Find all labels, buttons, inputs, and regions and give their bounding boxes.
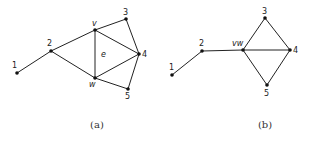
node-3 <box>263 16 267 20</box>
node-vw <box>241 48 245 52</box>
node-label-1: 1 <box>12 61 17 70</box>
caption-graph-b: (b) <box>258 119 272 130</box>
edge-2-w <box>51 51 95 78</box>
node-5 <box>126 87 130 91</box>
node-v <box>93 28 97 32</box>
node-label-4: 4 <box>142 50 147 59</box>
node-1 <box>170 73 174 77</box>
edge-w-5 <box>95 78 128 89</box>
node-label-1: 1 <box>169 63 174 72</box>
node-4 <box>137 52 141 56</box>
graph-b: 12vw345(b) <box>169 7 298 130</box>
node-2 <box>200 49 204 53</box>
edge-v-3 <box>95 19 126 30</box>
edge-vw-5 <box>243 50 267 85</box>
node-label-3: 3 <box>123 8 128 17</box>
edge-label-e: e <box>101 50 106 59</box>
edge-2-vw <box>202 50 243 51</box>
edge-2-v <box>51 30 95 51</box>
node-1 <box>15 71 19 75</box>
node-label-4: 4 <box>293 46 298 55</box>
edge-vw-3 <box>243 18 265 50</box>
node-label-vw: vw <box>232 39 244 48</box>
node-5 <box>265 83 269 87</box>
graph-contraction-diagram: 12v34w5e(a) 12vw345(b) <box>0 0 309 142</box>
edge-1-2 <box>17 51 51 73</box>
node-label-2: 2 <box>199 39 204 48</box>
graph-a: 12v34w5e(a) <box>12 8 147 130</box>
node-label-5: 5 <box>264 89 269 98</box>
caption-graph-a: (a) <box>90 119 104 130</box>
node-2 <box>49 49 53 53</box>
node-label-v: v <box>92 19 97 28</box>
node-4 <box>288 48 292 52</box>
node-label-5: 5 <box>125 92 130 101</box>
edge-5-4 <box>267 50 290 85</box>
node-3 <box>124 17 128 21</box>
node-label-w: w <box>89 80 96 89</box>
node-label-2: 2 <box>47 39 52 48</box>
node-label-3: 3 <box>262 7 267 16</box>
edge-3-4 <box>126 19 139 54</box>
edge-3-4 <box>265 18 290 50</box>
edge-1-2 <box>172 51 202 75</box>
